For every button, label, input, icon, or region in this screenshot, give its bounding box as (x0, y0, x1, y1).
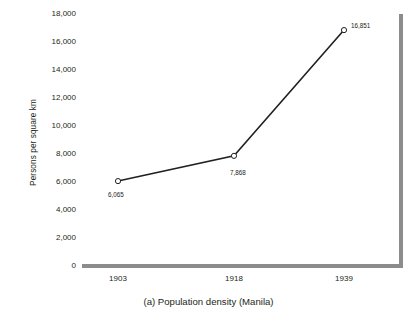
x-axis-tick-labels: 190319181939 (82, 274, 399, 288)
data-point-label: 6,065 (108, 191, 124, 198)
y-axis-tick-labels: 02,0004,0006,0008,00010,00012,00014,0001… (28, 0, 76, 325)
y-axis-tick-label: 2,000 (32, 234, 76, 242)
y-axis-tick-label: 14,000 (32, 66, 76, 74)
plot-right-border (399, 14, 403, 266)
plot-area (82, 14, 399, 266)
data-point-marker (115, 178, 120, 183)
y-axis-tick-label: 0 (32, 262, 76, 270)
data-point-marker (341, 27, 346, 32)
data-point-label: 16,851 (351, 22, 370, 29)
series-polyline (118, 30, 344, 181)
data-point-label: 7,868 (230, 169, 246, 176)
y-axis-tick-label: 12,000 (32, 94, 76, 102)
y-axis-tick-label: 18,000 (32, 10, 76, 18)
y-axis-tick-label: 16,000 (32, 38, 76, 46)
x-axis-tick-label: 1903 (88, 274, 148, 283)
x-axis-tick-label: 1918 (204, 274, 264, 283)
figure-caption: (a) Population density (Manila) (0, 296, 417, 307)
y-axis-tick-label: 6,000 (32, 178, 76, 186)
x-axis-tick-label: 1939 (314, 274, 374, 283)
y-axis-tick-label: 8,000 (32, 150, 76, 158)
chart-figure: Persons per square km 02,0004,0006,0008,… (0, 0, 417, 325)
y-axis-tick-label: 4,000 (32, 206, 76, 214)
y-axis-tick-label: 10,000 (32, 122, 76, 130)
data-point-marker (231, 153, 236, 158)
data-series-line (82, 14, 399, 266)
